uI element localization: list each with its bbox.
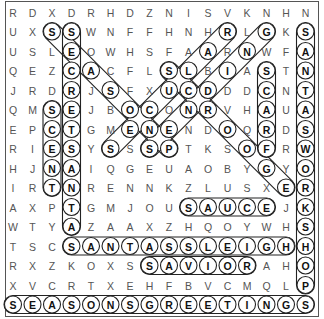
grid-letter[interactable]: E [185, 299, 192, 311]
grid-letter[interactable]: I [12, 182, 15, 194]
grid-letter[interactable]: W [262, 46, 272, 58]
grid-letter[interactable]: U [224, 202, 232, 214]
grid-letter[interactable]: L [205, 182, 211, 194]
grid-letter[interactable]: N [146, 124, 154, 136]
grid-letter[interactable]: H [243, 104, 251, 116]
grid-letter[interactable]: O [223, 221, 231, 233]
grid-letter[interactable]: N [107, 241, 115, 253]
grid-letter[interactable]: W [106, 46, 116, 58]
grid-letter[interactable]: C [263, 85, 271, 97]
grid-letter[interactable]: S [146, 143, 153, 155]
grid-letter[interactable]: O [223, 124, 231, 136]
grid-letter[interactable]: L [49, 46, 55, 58]
grid-letter[interactable]: O [126, 104, 134, 116]
grid-letter[interactable]: F [127, 85, 133, 97]
grid-letter[interactable]: O [301, 163, 309, 175]
grid-letter[interactable]: D [204, 124, 212, 136]
grid-letter[interactable]: N [126, 182, 134, 194]
grid-letter[interactable]: K [204, 143, 211, 155]
grid-letter[interactable]: H [282, 7, 290, 19]
grid-letter[interactable]: T [185, 143, 192, 155]
grid-letter[interactable]: O [87, 299, 95, 311]
grid-letter[interactable]: G [87, 124, 95, 136]
grid-letter[interactable]: H [282, 241, 290, 253]
grid-letter[interactable]: E [68, 104, 75, 116]
grid-letter[interactable]: S [9, 299, 16, 311]
grid-letter[interactable]: R [29, 182, 37, 194]
grid-letter[interactable]: B [224, 163, 231, 175]
grid-letter[interactable]: C [185, 85, 193, 97]
grid-letter[interactable]: P [29, 124, 36, 136]
grid-letter[interactable]: A [263, 104, 271, 116]
grid-letter[interactable]: T [88, 280, 95, 292]
grid-letter[interactable]: K [68, 260, 75, 272]
grid-letter[interactable]: L [244, 26, 250, 38]
grid-letter[interactable]: T [224, 299, 231, 311]
grid-letter[interactable]: A [107, 221, 114, 233]
grid-letter[interactable]: D [29, 7, 37, 19]
grid-letter[interactable]: A [126, 221, 133, 233]
grid-letter[interactable]: H [204, 26, 212, 38]
grid-letter[interactable]: N [68, 182, 76, 194]
grid-letter[interactable]: N [185, 124, 193, 136]
grid-letter[interactable]: U [9, 26, 17, 38]
grid-letter[interactable]: O [165, 104, 173, 116]
grid-letter[interactable]: U [282, 104, 290, 116]
grid-letter[interactable]: R [224, 26, 232, 38]
grid-letter[interactable]: O [204, 163, 212, 175]
grid-letter[interactable]: S [165, 65, 172, 77]
grid-letter[interactable]: L [205, 241, 212, 253]
grid-letter[interactable]: K [243, 7, 250, 19]
grid-letter[interactable]: J [30, 163, 35, 175]
grid-letter[interactable]: O [223, 260, 231, 272]
grid-letter[interactable]: K [165, 182, 172, 194]
grid-letter[interactable]: Q [9, 104, 17, 116]
grid-letter[interactable]: X [48, 7, 55, 19]
grid-letter[interactable]: N [146, 182, 154, 194]
grid-letter[interactable]: K [302, 202, 310, 214]
grid-letter[interactable]: S [68, 241, 75, 253]
grid-letter[interactable]: A [302, 104, 310, 116]
grid-letter[interactable]: R [9, 260, 17, 272]
grid-letter[interactable]: U [9, 46, 17, 58]
grid-letter[interactable]: D [204, 85, 212, 97]
grid-letter[interactable]: S [48, 104, 55, 116]
grid-letter[interactable]: N [185, 104, 193, 116]
grid-letter[interactable]: C [146, 104, 154, 116]
grid-letter[interactable]: G [262, 241, 270, 253]
grid-letter[interactable]: G [262, 26, 270, 38]
grid-letter[interactable]: N [263, 7, 271, 19]
grid-letter[interactable]: S [263, 65, 270, 77]
grid-letter[interactable]: Y [243, 221, 250, 233]
grid-letter[interactable]: N [107, 26, 115, 38]
grid-letter[interactable]: M [243, 280, 252, 292]
grid-letter[interactable]: S [302, 221, 309, 233]
grid-letter[interactable]: S [185, 202, 192, 214]
grid-letter[interactable]: W [8, 221, 18, 233]
grid-letter[interactable]: E [263, 202, 270, 214]
grid-letter[interactable]: N [243, 46, 251, 58]
grid-letter[interactable]: E [282, 182, 289, 194]
grid-letter[interactable]: A [146, 241, 154, 253]
grid-letter[interactable]: H [302, 241, 310, 253]
grid-letter[interactable]: E [165, 124, 172, 136]
grid-letter[interactable]: H [126, 46, 134, 58]
grid-letter[interactable]: B [185, 280, 192, 292]
grid-letter[interactable]: J [10, 85, 15, 97]
grid-letter[interactable]: A [87, 241, 95, 253]
grid-letter[interactable]: S [126, 299, 133, 311]
grid-letter[interactable]: S [302, 26, 309, 38]
grid-letter[interactable]: V [204, 280, 211, 292]
grid-letter[interactable]: A [68, 163, 76, 175]
grid-letter[interactable]: S [165, 241, 172, 253]
letter-grid[interactable]: RDXDRHDZNISVKNHNUXSSWNFFHNHRLGKSUSLEOWHS… [0, 0, 324, 319]
grid-letter[interactable]: G [145, 299, 153, 311]
grid-letter[interactable]: G [87, 202, 95, 214]
grid-letter[interactable]: R [87, 7, 95, 19]
grid-letter[interactable]: X [29, 260, 36, 272]
grid-letter[interactable]: N [185, 26, 193, 38]
grid-letter[interactable]: I [31, 143, 34, 155]
grid-letter[interactable]: I [246, 241, 249, 253]
grid-letter[interactable]: S [302, 124, 309, 136]
grid-letter[interactable]: H [185, 221, 193, 233]
